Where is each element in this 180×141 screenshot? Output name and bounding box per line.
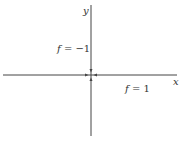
arrow-up-icon xyxy=(90,78,93,82)
region-val: −1 xyxy=(75,43,90,54)
arrow-left-icon xyxy=(94,74,98,77)
coordinate-diagram: y x f = −1 f = 1 xyxy=(0,0,180,141)
arrow-right-icon xyxy=(85,74,89,77)
x-axis-label: x xyxy=(173,76,179,87)
region-label-lower-right: f = 1 xyxy=(124,83,150,94)
y-axis-label: y xyxy=(82,5,89,16)
region-eq: = xyxy=(61,43,76,54)
region-label-upper-left: f = −1 xyxy=(56,43,90,54)
region-val: 1 xyxy=(143,83,149,94)
arrow-down-icon xyxy=(90,69,93,73)
region-eq: = xyxy=(129,83,144,94)
